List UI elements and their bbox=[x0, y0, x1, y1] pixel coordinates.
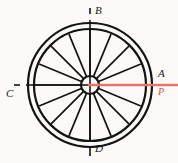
axis-label-b: B bbox=[95, 5, 102, 16]
wheel-spoke bbox=[69, 34, 87, 77]
wheel-figure: B D C A P bbox=[0, 0, 178, 163]
wheel-spoke bbox=[69, 92, 87, 135]
force-label-p: P bbox=[158, 87, 164, 97]
axis-label-a: A bbox=[158, 68, 165, 79]
wheel-spoke bbox=[96, 46, 129, 79]
wheel-spoke bbox=[51, 91, 84, 124]
wheel-diagram-canvas bbox=[0, 0, 178, 163]
wheel-spoke bbox=[96, 91, 129, 124]
wheel-spoke bbox=[39, 88, 82, 106]
wheel-spoke bbox=[93, 92, 111, 135]
axis-label-c: C bbox=[6, 88, 13, 99]
wheel-spoke bbox=[51, 46, 84, 79]
wheel-spoke bbox=[97, 88, 140, 106]
axis-label-d: D bbox=[95, 143, 103, 154]
wheel-spoke bbox=[93, 34, 111, 77]
wheel-spoke bbox=[97, 64, 140, 82]
wheel-spoke bbox=[39, 64, 82, 82]
